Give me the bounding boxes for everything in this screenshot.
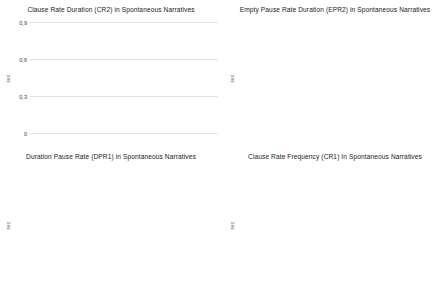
chart-panel-dpr1: Duration Pause Rate (DPR1) in Spontaneou…	[0, 147, 224, 294]
chart-panel-epr2: Empty Pause Rate Duration (EPR2) in Spon…	[224, 0, 448, 147]
y-axis-tick-label: 0,9	[19, 20, 27, 26]
bar-series	[253, 170, 442, 281]
y-axis-tick-label: 0	[24, 131, 27, 137]
plot-area-wrapper: sec	[228, 23, 442, 134]
y-axis-title: sec	[228, 170, 237, 281]
gridline	[29, 59, 218, 60]
chart-panel-cr2: Clause Rate Duration (CR2) in Spontaneou…	[0, 0, 224, 147]
bar-series	[253, 23, 442, 134]
y-axis-title-label: sec	[230, 222, 235, 230]
y-axis-tick-label: 0,3	[19, 94, 27, 100]
plot-canvas	[253, 23, 442, 134]
x-axis-category-labels	[253, 281, 442, 292]
x-axis-category-labels	[29, 134, 218, 145]
gridline	[29, 96, 218, 97]
y-axis-title: sec	[4, 170, 13, 281]
y-axis-ticks	[237, 170, 253, 281]
y-axis-title-label: sec	[6, 75, 11, 83]
y-axis-title-label: sec	[230, 75, 235, 83]
plot-canvas	[29, 23, 218, 134]
plot-canvas	[29, 170, 218, 281]
y-axis-title-label: sec	[6, 222, 11, 230]
gridline	[29, 22, 218, 23]
x-axis-category-labels	[253, 134, 442, 145]
y-axis-ticks	[237, 23, 253, 134]
plot-area-wrapper: sec	[4, 170, 218, 281]
chart-title: Clause Rate Duration (CR2) in Spontaneou…	[4, 4, 218, 23]
bar-chart-figure-grid: Clause Rate Duration (CR2) in Spontaneou…	[0, 0, 448, 294]
y-axis-tick-label: 0,6	[19, 57, 27, 63]
plot-canvas	[253, 170, 442, 281]
chart-title: Duration Pause Rate (DPR1) in Spontaneou…	[4, 151, 218, 170]
plot-area-wrapper: sec 00,30,60,9	[4, 23, 218, 134]
y-axis-title: sec	[4, 23, 13, 134]
y-axis-title: sec	[228, 23, 237, 134]
chart-title: Clause Rate Frequency (CR1) In Spontaneo…	[228, 151, 442, 170]
bar-series	[29, 170, 218, 281]
x-axis-category-labels	[29, 281, 218, 292]
bar-series	[29, 23, 218, 134]
y-axis-ticks: 00,30,60,9	[13, 23, 29, 134]
chart-panel-cr1: Clause Rate Frequency (CR1) In Spontaneo…	[224, 147, 448, 294]
chart-title: Empty Pause Rate Duration (EPR2) in Spon…	[228, 4, 442, 23]
y-axis-ticks	[13, 170, 29, 281]
plot-area-wrapper: sec	[228, 170, 442, 281]
